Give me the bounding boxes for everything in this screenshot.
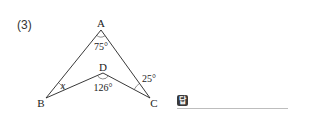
angle-label-a: 75° — [94, 41, 108, 52]
angle-label-c: 25° — [142, 73, 156, 84]
answer-badge-icon: 답 — [177, 95, 188, 106]
angle-arc-a — [97, 35, 106, 37]
vertex-label-d: D — [99, 61, 107, 73]
vertex-label-b: B — [37, 97, 44, 109]
vertex-label-c: C — [150, 97, 157, 109]
angle-label-d: 126° — [94, 82, 113, 93]
answer-input-line[interactable] — [177, 108, 288, 109]
angle-arc-d — [98, 75, 109, 79]
vertex-label-a: A — [97, 17, 105, 29]
angle-arc-c — [134, 83, 139, 89]
angle-label-b: x — [60, 80, 66, 91]
answer-area[interactable]: 답 — [177, 93, 289, 111]
